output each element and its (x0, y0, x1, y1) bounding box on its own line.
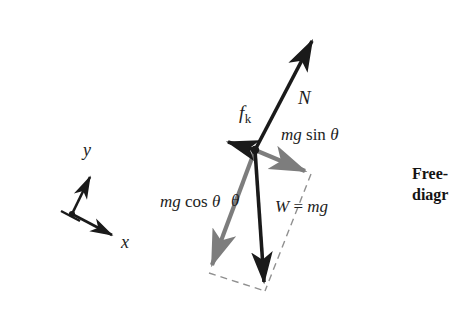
x-axis-label: x (121, 233, 129, 251)
friction-subscript: k (245, 111, 252, 126)
x-axis-arrow (72, 214, 112, 235)
mg-sin-theta-label: mg sin θ (281, 126, 338, 143)
caption-line-2: diagr (412, 184, 467, 205)
dashed-line-from-mgcos-tip (209, 273, 265, 291)
mg-sin-theta-vector (255, 150, 305, 171)
normal-force-label: N (298, 88, 311, 107)
kinetic-friction-force-label: fk (239, 103, 251, 125)
free-body-diagram-figure: N fk mg sin θ mg cos θ θ W = mg y x Free… (0, 0, 467, 330)
mg-sin-fn-part: sin (302, 125, 330, 144)
figure-caption: Free- diagr (412, 163, 467, 205)
mg-sin-mg-part: mg (281, 125, 302, 144)
force-origin-dot (251, 146, 259, 154)
weight-equals-sign: = (289, 197, 307, 216)
mg-cos-mg-part: mg (160, 192, 181, 211)
weight-symbol: W (275, 197, 289, 216)
diagram-canvas (0, 0, 467, 330)
angle-theta-label: θ (231, 192, 239, 209)
dashed-line-from-mgsin-tip (265, 174, 311, 291)
coordinate-axes-group (61, 177, 112, 235)
force-vectors-group (228, 41, 312, 282)
y-axis-label: y (83, 141, 91, 159)
mg-cos-fn-part: cos (181, 192, 212, 211)
caption-line-1: Free- (412, 163, 467, 184)
y-axis-arrow (72, 177, 90, 214)
mg-cos-theta-label: mg cos θ (160, 193, 220, 210)
weight-mg-part: mg (307, 197, 328, 216)
friction-symbol: f (239, 102, 244, 123)
weight-label: W = mg (275, 198, 328, 215)
axes-origin-dot (69, 211, 75, 217)
mg-sin-theta-part: θ (330, 125, 338, 144)
kinetic-friction-force-vector (228, 142, 255, 150)
mg-cos-theta-part: θ (212, 192, 220, 211)
weight-force-vector (255, 150, 264, 282)
